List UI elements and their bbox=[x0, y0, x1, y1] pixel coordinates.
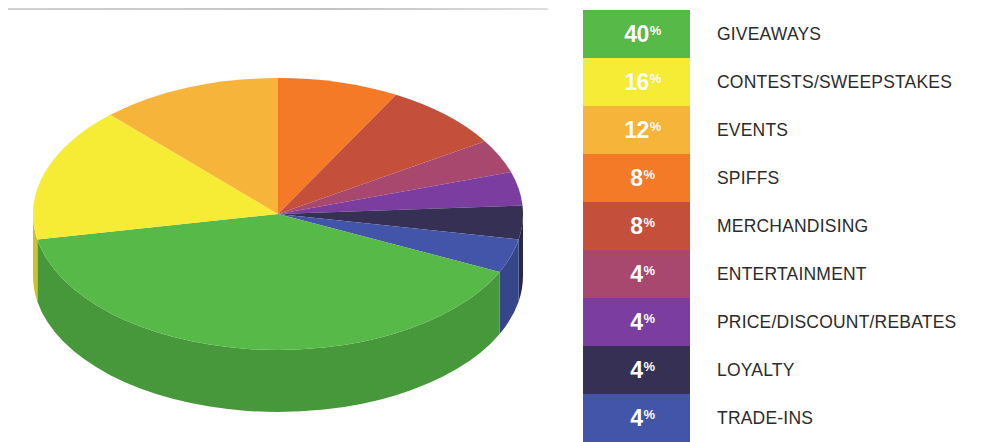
legend-row[interactable]: 16%CONTESTS/SWEEPSTAKES bbox=[583, 58, 994, 106]
legend-percent-number: 16 bbox=[624, 71, 649, 94]
legend-row[interactable]: 4%TRADE-INS bbox=[583, 394, 994, 442]
legend-color-swatch: 40% bbox=[583, 10, 690, 58]
top-divider-rule bbox=[8, 8, 548, 10]
legend-color-swatch: 4% bbox=[583, 298, 690, 346]
legend-color-swatch: 16% bbox=[583, 58, 690, 106]
percent-sign-icon: % bbox=[650, 24, 661, 37]
legend-percent-number: 8 bbox=[630, 215, 642, 238]
legend-category-label: MERCHANDISING bbox=[690, 216, 994, 237]
legend-percent-number: 4 bbox=[630, 359, 642, 382]
legend-percent-number: 8 bbox=[630, 167, 642, 190]
legend-percent-value: 4% bbox=[630, 263, 654, 286]
percent-sign-icon: % bbox=[644, 360, 655, 373]
legend-color-swatch: 12% bbox=[583, 106, 690, 154]
legend-percent-value: 8% bbox=[630, 215, 654, 238]
legend-color-swatch: 4% bbox=[583, 250, 690, 298]
legend-percent-value: 4% bbox=[630, 311, 654, 334]
legend-category-label: TRADE-INS bbox=[690, 408, 994, 429]
legend-row[interactable]: 4%LOYALTY bbox=[583, 346, 994, 394]
percent-sign-icon: % bbox=[644, 312, 655, 325]
percent-sign-icon: % bbox=[644, 264, 655, 277]
legend-row[interactable]: 8%MERCHANDISING bbox=[583, 202, 994, 250]
legend-percent-number: 4 bbox=[630, 263, 642, 286]
legend-category-label: GIVEAWAYS bbox=[690, 24, 994, 45]
legend-color-swatch: 8% bbox=[583, 154, 690, 202]
percent-sign-icon: % bbox=[644, 168, 655, 181]
legend-row[interactable]: 12%EVENTS bbox=[583, 106, 994, 154]
legend-color-swatch: 4% bbox=[583, 394, 690, 442]
legend-category-label: PRICE/DISCOUNT/REBATES bbox=[690, 312, 994, 333]
legend-color-swatch: 4% bbox=[583, 346, 690, 394]
legend-percent-value: 12% bbox=[624, 119, 661, 142]
pie-chart-graphic bbox=[20, 18, 565, 433]
percent-sign-icon: % bbox=[644, 216, 655, 229]
legend-percent-number: 40 bbox=[624, 23, 649, 46]
legend-category-label: EVENTS bbox=[690, 120, 994, 141]
legend-percent-number: 12 bbox=[624, 119, 649, 142]
pie-svg bbox=[20, 18, 565, 433]
legend-percent-number: 4 bbox=[630, 311, 642, 334]
legend-percent-value: 4% bbox=[630, 407, 654, 430]
chart-legend: 40%GIVEAWAYS16%CONTESTS/SWEEPSTAKES12%EV… bbox=[583, 10, 994, 442]
legend-row[interactable]: 8%SPIFFS bbox=[583, 154, 994, 202]
legend-row[interactable]: 40%GIVEAWAYS bbox=[583, 10, 994, 58]
legend-percent-number: 4 bbox=[630, 407, 642, 430]
legend-percent-value: 16% bbox=[624, 71, 661, 94]
percent-sign-icon: % bbox=[650, 120, 661, 133]
legend-category-label: LOYALTY bbox=[690, 360, 994, 381]
legend-percent-value: 4% bbox=[630, 359, 654, 382]
pie-chart-page: 40%GIVEAWAYS16%CONTESTS/SWEEPSTAKES12%EV… bbox=[0, 0, 994, 442]
legend-color-swatch: 8% bbox=[583, 202, 690, 250]
legend-percent-value: 40% bbox=[624, 23, 661, 46]
percent-sign-icon: % bbox=[644, 408, 655, 421]
percent-sign-icon: % bbox=[650, 72, 661, 85]
legend-category-label: CONTESTS/SWEEPSTAKES bbox=[690, 72, 994, 93]
legend-category-label: SPIFFS bbox=[690, 168, 994, 189]
pie-top-face bbox=[33, 78, 523, 350]
legend-category-label: ENTERTAINMENT bbox=[690, 264, 994, 285]
legend-row[interactable]: 4%PRICE/DISCOUNT/REBATES bbox=[583, 298, 994, 346]
legend-percent-value: 8% bbox=[630, 167, 654, 190]
legend-row[interactable]: 4%ENTERTAINMENT bbox=[583, 250, 994, 298]
